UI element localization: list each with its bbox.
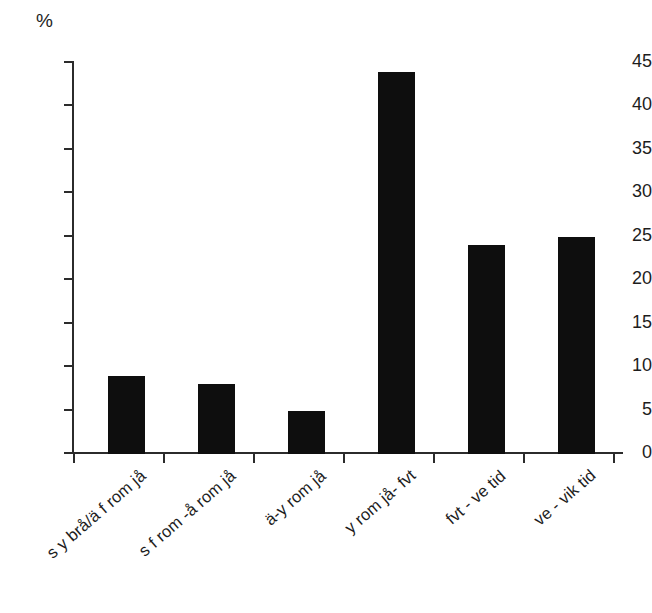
bar: [198, 384, 235, 454]
x-axis-tick: [523, 454, 525, 463]
bar: [558, 237, 595, 454]
x-axis-category-label: ve - vik tid: [530, 466, 599, 530]
x-axis-tick: [253, 454, 255, 463]
x-axis-tick: [343, 454, 345, 463]
x-axis-category-label: y rom jå- fvt: [341, 466, 419, 538]
bar: [378, 72, 415, 454]
x-axis-category-label: s f rom -å rom jå: [135, 466, 239, 560]
x-axis-category-label: fvt - ve tid: [442, 466, 509, 528]
x-axis-tick: [73, 454, 75, 463]
bar: [288, 411, 325, 454]
x-axis-category-label: s y brå/ä f rom jå: [43, 466, 150, 562]
bar-chart: % 051015202530354045 s y brå/ä f rom jås…: [0, 0, 652, 613]
x-axis-tick: [613, 454, 615, 463]
bar: [468, 245, 505, 454]
x-axis-tick: [163, 454, 165, 463]
plot-area: [0, 0, 652, 454]
bar: [108, 376, 145, 454]
x-axis-category-label: ä-y rom jå: [261, 466, 330, 529]
x-axis-tick: [433, 454, 435, 463]
